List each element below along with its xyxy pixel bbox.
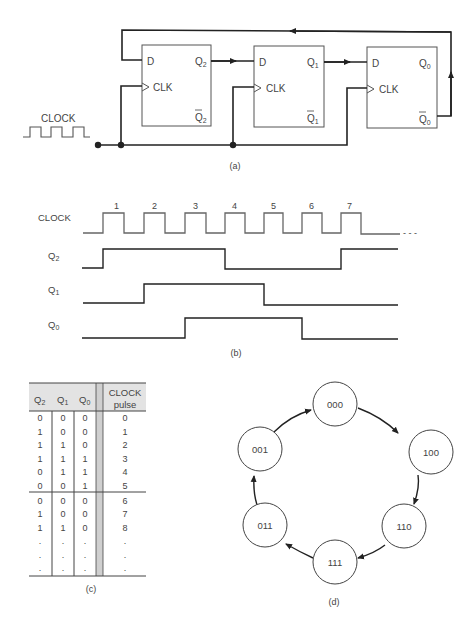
state-table: Q2 Q1 Q0 CLOCK pulse 0000100111021113011… (29, 383, 146, 594)
q1-waveform (83, 284, 398, 305)
table-cell: . (124, 563, 127, 573)
caption-c: (c) (86, 584, 97, 594)
table-cell: 1 (60, 454, 65, 464)
state-diagram: 000100110111011001 (d) (238, 382, 453, 607)
table-cell: 6 (122, 496, 127, 506)
table-cell: . (39, 536, 42, 546)
d-label: D (259, 57, 266, 68)
svg-text:7: 7 (347, 201, 352, 211)
table-cell: . (84, 563, 87, 573)
state-label: 011 (257, 520, 272, 531)
table-cell: 1 (82, 454, 87, 464)
table-cell: 1 (82, 481, 87, 491)
table-cell: 0 (37, 467, 42, 477)
table-cell: 7 (122, 509, 127, 519)
table-cell: 0 (60, 413, 65, 423)
caption-d: (d) (329, 597, 340, 607)
table-cell: 1 (37, 427, 42, 437)
table-cell: . (39, 550, 42, 560)
clk-label: CLK (379, 84, 399, 95)
clock-input-node (95, 142, 101, 148)
table-cell: . (84, 536, 87, 546)
table-cell: . (124, 550, 127, 560)
state-label: 000 (327, 399, 343, 410)
svg-text:6: 6 (309, 201, 314, 211)
table-cell: 0 (82, 509, 87, 519)
state-label: 100 (423, 447, 439, 458)
johnson-counter-figure: D CLK Q2 Q2 D CLK Q1 Q1 D CLK Q0 Q0 (0, 0, 471, 617)
table-cell: 3 (122, 454, 127, 464)
table-cell: 1 (60, 467, 65, 477)
circuit-diagram: D CLK Q2 Q2 D CLK Q1 Q1 D CLK Q0 Q0 (23, 30, 451, 171)
svg-text:5: 5 (271, 201, 276, 211)
table-cell: . (62, 550, 65, 560)
table-cell: 0 (82, 413, 87, 423)
svg-text:pulse: pulse (114, 399, 137, 410)
state-node-001: 001 (238, 427, 282, 471)
table-cell: 0 (122, 413, 127, 423)
table-cell: . (124, 536, 127, 546)
table-cell: 0 (82, 427, 87, 437)
d-label: D (372, 58, 379, 69)
svg-text:2: 2 (152, 201, 157, 211)
table-cell: 0 (82, 440, 87, 450)
junction-node (230, 142, 236, 148)
table-cell: . (62, 563, 65, 573)
pulse-numbers: 1 2 3 4 5 6 7 (114, 201, 352, 211)
table-cell: 1 (37, 454, 42, 464)
clock-waveform-icon (23, 127, 90, 137)
table-cell: 0 (60, 496, 65, 506)
table-cell: 0 (60, 509, 65, 519)
svg-text:1: 1 (114, 201, 119, 211)
caption-a: (a) (230, 161, 241, 171)
table-cell: . (39, 563, 42, 573)
state-node-011: 011 (243, 503, 287, 547)
ellipsis: - - - (403, 228, 417, 238)
state-label: 110 (396, 521, 411, 532)
table-cell: 1 (37, 509, 42, 519)
table-cell: 5 (122, 481, 127, 491)
clk-label: CLK (266, 83, 286, 94)
signal-label-clock: CLOCK (38, 212, 71, 223)
signal-label-q0: Q0 (48, 319, 59, 331)
table-cell: 0 (82, 523, 87, 533)
table-cell: 1 (82, 467, 87, 477)
table-cell: . (62, 536, 65, 546)
state-node-100: 100 (409, 430, 453, 474)
clock-label: CLOCK (41, 113, 76, 124)
table-cell: 1 (37, 523, 42, 533)
table-divider-band (96, 383, 103, 576)
table-body: 000010011102111301140015000610071108....… (37, 413, 127, 573)
table-cell: 0 (37, 496, 42, 506)
state-node-000: 000 (313, 382, 357, 426)
table-cell: . (84, 550, 87, 560)
table-cell: 0 (37, 413, 42, 423)
state-node-110: 110 (382, 504, 426, 548)
signal-label-q2: Q2 (48, 250, 59, 262)
timing-diagram: CLOCK Q2 Q1 Q0 1 2 3 4 5 6 7 - - - (b) (38, 201, 417, 358)
svg-text:3: 3 (193, 201, 198, 211)
table-cell: 1 (37, 440, 42, 450)
table-cell: 0 (60, 427, 65, 437)
q0-waveform (82, 318, 398, 339)
table-cell: 1 (60, 440, 65, 450)
clk-label: CLK (153, 82, 173, 93)
svg-text:CLOCK: CLOCK (109, 387, 142, 398)
state-label: 001 (252, 444, 268, 455)
table-cell: 0 (82, 496, 87, 506)
table-cell: 1 (122, 427, 127, 437)
table-cell: 0 (37, 481, 42, 491)
d-label: D (147, 56, 154, 67)
table-cell: 1 (60, 523, 65, 533)
table-cell: 2 (122, 440, 127, 450)
state-nodes: 000100110111011001 (238, 382, 453, 584)
table-cell: 0 (60, 481, 65, 491)
table-cell: 4 (122, 467, 127, 477)
caption-b: (b) (231, 348, 242, 358)
junction-node (118, 142, 124, 148)
svg-text:4: 4 (232, 201, 237, 211)
q2-waveform (82, 249, 398, 269)
state-label: 111 (328, 557, 342, 568)
state-node-111: 111 (313, 540, 357, 584)
signal-label-q1: Q1 (48, 284, 59, 296)
